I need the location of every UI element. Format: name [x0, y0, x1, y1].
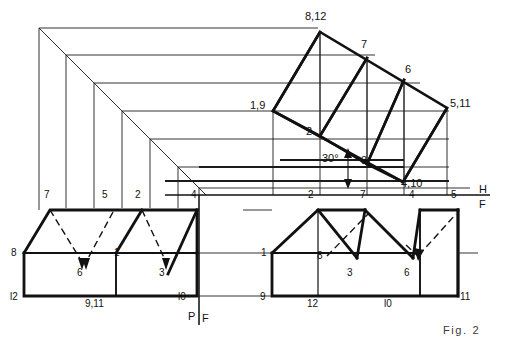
- front-label-1: 1: [261, 248, 267, 258]
- profile-label-2: 2: [135, 190, 141, 200]
- profile-hidden-7-6: [50, 210, 82, 262]
- front-label-2: 2: [308, 190, 314, 200]
- figure-canvas: 7 5 2 4 8 6 1 3 l2 9,11 l0 2 7 4 5 1 8 3…: [0, 0, 522, 351]
- profile-label-3: 3: [159, 268, 165, 278]
- aux-fold-2-7: [320, 58, 367, 136]
- profile-label-6: 6: [77, 268, 83, 278]
- aux-label-3: 3: [361, 155, 367, 166]
- aux-label-7: 7: [361, 39, 367, 50]
- figure-caption: Fig. 2: [443, 325, 480, 336]
- profile-slope-3-4: [168, 210, 197, 274]
- front-label-8: 8: [317, 251, 323, 261]
- front-slope-7-6: [365, 210, 413, 258]
- profile-hidden-arrowheads: [78, 258, 170, 270]
- aux-label-1-9: 1,9: [250, 100, 265, 111]
- profile-label-1: 1: [114, 248, 120, 258]
- profile-label-12: l2: [10, 292, 18, 302]
- angle-arrow-head-down: [344, 179, 352, 189]
- profile-view-hidden-lines: [50, 210, 166, 262]
- aux-label-5-11: 5,11: [450, 98, 471, 109]
- hf-reference-line: [165, 195, 490, 325]
- front-label-11: 11: [460, 292, 470, 302]
- reference-label-h: H: [479, 184, 487, 195]
- front-label-7: 7: [360, 190, 366, 200]
- aux-label-8-12: 8,12: [305, 11, 326, 22]
- miter-connector: [178, 167, 199, 188]
- front-label-4: 4: [409, 190, 415, 200]
- aux-edge-410-511: [403, 108, 447, 182]
- front-slope-3-7: [357, 210, 365, 258]
- front-label-9: 9: [260, 292, 266, 302]
- front-label-12: 12: [307, 299, 318, 309]
- profile-label-9-11: 9,11: [85, 299, 104, 309]
- front-slope-2-3: [318, 210, 357, 258]
- front-label-6: 6: [404, 268, 410, 278]
- angle-label-30: 30°: [322, 153, 339, 164]
- profile-label-4: 4: [191, 190, 197, 200]
- front-label-3: 3: [347, 268, 353, 278]
- reference-label-f: F: [479, 199, 486, 210]
- reference-label-p: P: [188, 311, 195, 322]
- profile-hidden-2-3: [142, 210, 166, 262]
- aux-label-6: 6: [405, 64, 411, 75]
- aux-label-4-10: 4,10: [401, 178, 422, 189]
- profile-label-7: 7: [44, 190, 50, 200]
- profile-view-outline: [24, 210, 197, 296]
- aux-lower-chain: [273, 111, 403, 182]
- profile-lower-body: [24, 253, 197, 296]
- front-label-10: l0: [384, 299, 392, 309]
- aux-edge-812-19: [273, 32, 320, 111]
- profile-label-8: 8: [11, 248, 17, 258]
- front-hidden-6-5: [419, 214, 456, 255]
- front-label-5: 5: [451, 190, 457, 200]
- aux-label-2: 2: [306, 126, 312, 137]
- profile-label-10: l0: [178, 292, 186, 302]
- profile-label-5: 5: [102, 190, 108, 200]
- profile-hidden-5-6: [86, 212, 113, 262]
- reference-label-f-lower: F: [202, 313, 209, 324]
- aux-fold-3-6: [367, 80, 404, 164]
